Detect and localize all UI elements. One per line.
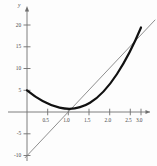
y-tick-label-minus-10: -10 (4, 152, 21, 158)
y-tick-label-5: 5 (8, 87, 21, 93)
y-tick-label-15: 15 (8, 43, 21, 49)
graph-figure: y 20 15 10 5 -5 -10 0.5 1.0 1.5 2.0 2.5 … (0, 0, 157, 166)
parabola-curve (27, 28, 141, 109)
y-tick-label-10: 10 (8, 65, 21, 71)
plot-canvas (0, 0, 157, 166)
x-tick-label-0-5: 0.5 (43, 117, 49, 123)
x-axis-arrow-icon (146, 110, 151, 114)
y-axis-arrow-icon (25, 6, 29, 12)
x-tick-label-1-0: 1.0 (63, 117, 69, 123)
x-tick-label-2-0: 2.0 (105, 117, 111, 123)
x-tick-label-1-5: 1.5 (84, 117, 90, 123)
x-tick-label-3-0: 3.0 (136, 117, 142, 123)
y-tick-label-20: 20 (8, 22, 21, 28)
y-tick-label-minus-5: -5 (6, 130, 21, 136)
x-tick-label-2-5: 2.5 (125, 117, 131, 123)
y-axis-label: y (18, 2, 20, 8)
